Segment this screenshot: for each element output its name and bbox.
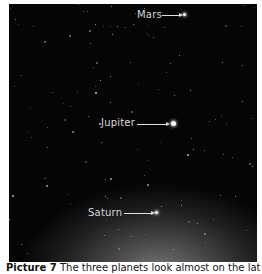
star [100, 80, 101, 81]
star [105, 179, 106, 180]
star [170, 63, 171, 64]
star [244, 5, 245, 6]
caption-text: The three planets look almost on the lat [60, 262, 261, 273]
star [69, 35, 71, 37]
planet-mars [183, 13, 186, 16]
star [209, 121, 210, 122]
star [181, 200, 182, 201]
star [118, 229, 119, 230]
star [133, 24, 134, 25]
star [221, 116, 222, 117]
star [118, 248, 120, 250]
star [12, 195, 14, 197]
star [10, 8, 11, 9]
star [179, 55, 180, 56]
star [204, 150, 205, 151]
star [173, 249, 174, 250]
star [87, 11, 88, 12]
star [246, 230, 247, 231]
star [112, 34, 113, 35]
star [106, 219, 107, 220]
star [18, 24, 19, 25]
arrow-icon [124, 213, 152, 214]
star [223, 154, 224, 155]
star [190, 90, 191, 91]
star [146, 33, 147, 34]
star [107, 198, 108, 199]
star [148, 160, 149, 161]
star [205, 242, 206, 243]
star [160, 142, 161, 143]
star [21, 244, 22, 245]
star [95, 86, 96, 87]
star [14, 86, 15, 87]
star [95, 24, 96, 25]
star [47, 127, 48, 128]
star [47, 147, 48, 148]
arrow-icon [137, 124, 167, 125]
star [215, 119, 216, 120]
star [174, 95, 175, 96]
star [197, 223, 198, 224]
star [42, 46, 43, 47]
star [83, 11, 84, 12]
star [187, 154, 189, 156]
star [31, 137, 32, 138]
star [67, 194, 68, 195]
star [131, 236, 132, 237]
star [64, 119, 66, 121]
star [46, 177, 47, 178]
star [89, 30, 91, 32]
star [117, 26, 118, 27]
star [226, 124, 227, 125]
star [144, 175, 145, 176]
star [164, 27, 165, 28]
star [27, 253, 28, 254]
star [147, 184, 149, 186]
star [148, 35, 149, 36]
star [222, 62, 223, 63]
star [138, 84, 139, 85]
star [110, 26, 111, 27]
star [145, 234, 146, 235]
star [181, 205, 182, 206]
star [220, 195, 221, 196]
star [88, 116, 89, 117]
star [131, 111, 133, 113]
star [90, 43, 91, 44]
star [78, 4, 79, 5]
star [44, 178, 45, 179]
star [193, 149, 194, 150]
star [252, 166, 253, 167]
star [103, 26, 104, 27]
star [33, 26, 34, 27]
star [125, 27, 126, 28]
star [105, 196, 106, 197]
star [93, 67, 94, 68]
star [70, 204, 71, 205]
star [254, 7, 255, 8]
star [232, 157, 233, 158]
star [249, 163, 251, 165]
night-sky-photo: MarsJupiterSaturn [9, 4, 257, 262]
star [46, 185, 48, 187]
star [27, 131, 28, 132]
star [77, 92, 78, 93]
star [130, 62, 131, 63]
star [70, 106, 71, 107]
planet-label-mars: Mars [137, 9, 162, 21]
star [204, 233, 206, 235]
star [101, 142, 102, 143]
star [21, 75, 22, 76]
planet-saturn [155, 211, 158, 214]
star [188, 221, 190, 223]
star [9, 219, 10, 220]
star [137, 149, 138, 150]
star [213, 219, 214, 220]
star [111, 6, 112, 7]
planet-label-saturn: Saturn [88, 207, 122, 219]
star [235, 196, 236, 197]
star [72, 131, 74, 133]
star [110, 178, 112, 180]
star [148, 25, 149, 26]
